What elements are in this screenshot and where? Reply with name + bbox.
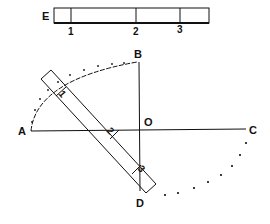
point-label-d: D <box>136 197 144 209</box>
scale-bar-label: E <box>42 10 49 22</box>
scale-tick-2: 2 <box>133 26 139 37</box>
point-label-a: A <box>18 125 26 137</box>
arc-a-b <box>31 62 137 131</box>
scale-bar: E 1 2 3 <box>42 8 209 37</box>
arc-dots <box>31 62 125 123</box>
diagram-canvas: E 1 2 3 1 2 <box>0 0 270 224</box>
point-label-c: C <box>249 124 257 136</box>
point-label-o: O <box>144 116 153 128</box>
dotted-arc-c-d <box>164 142 247 196</box>
scale-tick-1: 1 <box>68 26 74 37</box>
point-label-b: B <box>134 48 142 60</box>
scale-tick-3: 3 <box>177 24 183 35</box>
